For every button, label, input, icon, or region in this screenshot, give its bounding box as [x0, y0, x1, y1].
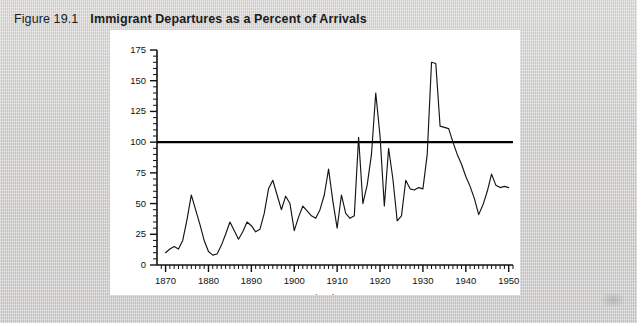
y-tick-label: 0 [141, 259, 146, 270]
x-tick-label: 1900 [284, 275, 305, 286]
x-tick-label: 1950 [498, 275, 519, 286]
y-tick-label: 150 [130, 75, 146, 86]
y-tick-label: 125 [130, 105, 146, 116]
y-axis: 0255075100125150175 [130, 44, 157, 270]
figure-title: Immigrant Departures as a Percent of Arr… [90, 12, 366, 26]
x-tick-label: 1920 [369, 275, 390, 286]
chart-panel: 0255075100125150175 18701880189019001910… [110, 30, 520, 295]
y-tick-label: 175 [130, 44, 146, 55]
x-tick-label: 1930 [412, 275, 433, 286]
y-tick-label: 25 [135, 228, 146, 239]
figure-number: Figure 19.1 [14, 12, 78, 26]
y-tick-label: 75 [135, 167, 146, 178]
data-series-line [166, 62, 509, 255]
figure-caption: Figure 19.1Immigrant Departures as a Per… [14, 12, 367, 26]
x-axis-title: Fiscal Years [309, 292, 360, 295]
x-tick-label: 1880 [198, 275, 219, 286]
y-tick-label: 50 [135, 198, 146, 209]
line-chart: 0255075100125150175 18701880189019001910… [110, 30, 520, 295]
scan-smudge [600, 292, 626, 308]
x-axis: 187018801890190019101920193019401950 [155, 265, 519, 286]
x-tick-label: 1890 [241, 275, 262, 286]
y-tick-label: 100 [130, 136, 146, 147]
x-tick-label: 1910 [327, 275, 348, 286]
x-tick-label: 1940 [455, 275, 476, 286]
x-tick-label: 1870 [155, 275, 176, 286]
